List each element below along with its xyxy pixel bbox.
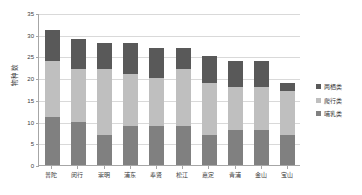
- bar-column[interactable]: [71, 39, 86, 165]
- y-axis-tick-label: 15: [0, 98, 34, 104]
- y-axis-tick-mark: [36, 166, 39, 167]
- legend-label: 爬行类: [324, 96, 342, 105]
- y-axis-tick-label: 20: [0, 76, 34, 82]
- y-axis-tick-label: 35: [0, 11, 34, 17]
- bar-segment[interactable]: [176, 48, 191, 70]
- y-axis-tick-label: 10: [0, 120, 34, 126]
- x-axis-tick-mark: [77, 166, 78, 169]
- bar-segment[interactable]: [149, 48, 164, 78]
- bar-segment[interactable]: [149, 78, 164, 126]
- bar-segment[interactable]: [202, 135, 217, 165]
- bar-segment[interactable]: [45, 61, 60, 117]
- bar-segment[interactable]: [71, 69, 86, 121]
- bar-segment[interactable]: [280, 91, 295, 134]
- bar-column[interactable]: [45, 30, 60, 165]
- bar-column[interactable]: [202, 56, 217, 165]
- y-axis-tick-label: 30: [0, 33, 34, 39]
- bar-segment[interactable]: [71, 122, 86, 165]
- bar-segment[interactable]: [228, 87, 243, 130]
- bar-column[interactable]: [149, 48, 164, 165]
- bar-segment[interactable]: [97, 135, 112, 165]
- bar-column[interactable]: [97, 43, 112, 165]
- bar-segment[interactable]: [176, 69, 191, 125]
- bar-series-group: [39, 14, 300, 165]
- legend-item[interactable]: 两栖类: [316, 82, 342, 91]
- y-axis-tick-label: 0: [0, 163, 34, 169]
- legend-label: 哺乳类: [324, 109, 342, 118]
- x-axis-tick-label: 宝山: [267, 170, 307, 179]
- bar-segment[interactable]: [176, 126, 191, 165]
- x-axis-tick-mark: [130, 166, 131, 169]
- bar-segment[interactable]: [202, 83, 217, 135]
- bar-segment[interactable]: [45, 30, 60, 60]
- bar-column[interactable]: [228, 61, 243, 165]
- y-axis-tick-label: 5: [0, 141, 34, 147]
- x-axis-tick-mark: [182, 166, 183, 169]
- bar-segment[interactable]: [149, 126, 164, 165]
- legend-label: 两栖类: [324, 82, 342, 91]
- legend-item[interactable]: 哺乳类: [316, 109, 342, 118]
- x-axis-tick-mark: [208, 166, 209, 169]
- y-axis-tick-label: 25: [0, 54, 34, 60]
- x-axis-tick-mark: [51, 166, 52, 169]
- bar-segment[interactable]: [228, 130, 243, 165]
- legend-swatch-icon: [316, 84, 321, 89]
- bar-segment[interactable]: [123, 126, 138, 165]
- bar-segment[interactable]: [254, 61, 269, 87]
- bar-segment[interactable]: [97, 43, 112, 69]
- bar-segment[interactable]: [97, 69, 112, 134]
- x-axis-tick-mark: [261, 166, 262, 169]
- x-axis-tick-mark: [156, 166, 157, 169]
- bar-segment[interactable]: [228, 61, 243, 87]
- bar-segment[interactable]: [123, 74, 138, 126]
- bar-segment[interactable]: [254, 130, 269, 165]
- bar-segment[interactable]: [280, 135, 295, 165]
- x-axis-tick-mark: [104, 166, 105, 169]
- bar-segment[interactable]: [254, 87, 269, 130]
- legend-swatch-icon: [316, 111, 321, 116]
- bar-segment[interactable]: [45, 117, 60, 165]
- stacked-bar-chart: 物种数 05101520253035 普陀闵行崇明浦东奉贤松江嘉定青浦金山宝山 …: [0, 0, 362, 195]
- x-axis-tick-mark: [287, 166, 288, 169]
- legend-swatch-icon: [316, 98, 321, 103]
- bar-column[interactable]: [254, 61, 269, 165]
- bar-column[interactable]: [176, 48, 191, 165]
- bar-segment[interactable]: [71, 39, 86, 69]
- chart-legend: 两栖类爬行类哺乳类: [316, 82, 342, 118]
- x-axis-tick-mark: [235, 166, 236, 169]
- bar-segment[interactable]: [202, 56, 217, 82]
- bar-segment[interactable]: [280, 83, 295, 92]
- bar-segment[interactable]: [123, 43, 138, 73]
- bar-column[interactable]: [123, 43, 138, 165]
- legend-item[interactable]: 爬行类: [316, 96, 342, 105]
- plot-area: [38, 14, 300, 166]
- bar-column[interactable]: [280, 83, 295, 165]
